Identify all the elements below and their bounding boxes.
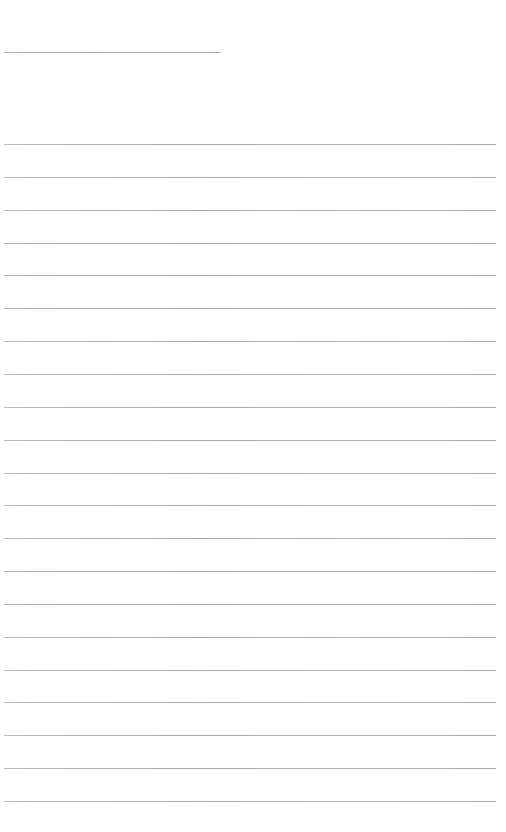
line-text bbox=[8, 124, 492, 144]
ruled-line bbox=[4, 735, 496, 736]
ruled-line bbox=[4, 702, 496, 703]
ruled-line bbox=[4, 440, 496, 441]
line-text bbox=[8, 223, 492, 243]
ruled-line bbox=[4, 275, 496, 276]
ruled-line bbox=[4, 144, 496, 145]
line-text bbox=[8, 387, 492, 407]
line-text bbox=[8, 321, 492, 341]
ruled-line bbox=[4, 308, 496, 309]
line-text bbox=[8, 420, 492, 440]
ruled-line bbox=[4, 341, 496, 342]
ruled-line bbox=[4, 801, 496, 802]
line-text bbox=[8, 715, 492, 735]
line-text bbox=[8, 485, 492, 505]
header-rule bbox=[4, 52, 221, 53]
ruled-line bbox=[4, 538, 496, 539]
ruled-line bbox=[4, 210, 496, 211]
line-text bbox=[8, 518, 492, 538]
ruled-line bbox=[4, 177, 496, 178]
line-text bbox=[8, 354, 492, 374]
ruled-line bbox=[4, 571, 496, 572]
ruled-line bbox=[4, 243, 496, 244]
line-text bbox=[8, 157, 492, 177]
lined-page bbox=[0, 0, 506, 832]
ruled-line bbox=[4, 407, 496, 408]
line-text bbox=[8, 255, 492, 275]
ruled-line bbox=[4, 637, 496, 638]
line-text bbox=[8, 453, 492, 473]
line-text bbox=[8, 748, 492, 768]
ruled-line bbox=[4, 670, 496, 671]
line-text bbox=[8, 288, 492, 308]
line-text bbox=[8, 781, 492, 801]
ruled-line bbox=[4, 505, 496, 506]
line-text bbox=[8, 584, 492, 604]
line-text bbox=[8, 190, 492, 210]
ruled-line bbox=[4, 473, 496, 474]
ruled-line bbox=[4, 374, 496, 375]
line-text bbox=[8, 551, 492, 571]
line-text bbox=[8, 682, 492, 702]
ruled-line bbox=[4, 604, 496, 605]
line-text bbox=[8, 617, 492, 637]
ruled-line bbox=[4, 768, 496, 769]
line-text bbox=[8, 650, 492, 670]
